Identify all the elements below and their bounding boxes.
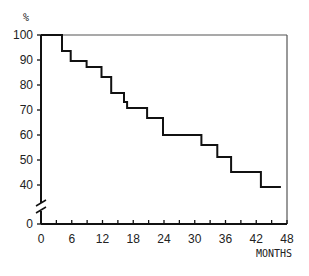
- x-tick-label: 0: [38, 232, 45, 246]
- survival-chart: 06121824303642480405060708090100 % MONTH…: [0, 0, 309, 276]
- x-tick-label: 48: [280, 232, 294, 246]
- y-tick-label: 90: [20, 53, 34, 67]
- x-tick-label: 6: [68, 232, 75, 246]
- survival-step-line: [41, 35, 281, 187]
- y-tick-label: 80: [20, 78, 34, 92]
- y-axis-unit-label: %: [23, 12, 29, 23]
- axes: [36, 35, 287, 224]
- survival-curve: [41, 35, 281, 187]
- axis-tick-labels: 06121824303642480405060708090100: [13, 28, 294, 246]
- x-axis-unit-label: MONTHS: [256, 248, 292, 259]
- y-tick-label: 70: [20, 103, 34, 117]
- y-tick-label: 100: [13, 28, 33, 42]
- y-tick-label: 40: [20, 178, 34, 192]
- x-tick-label: 42: [250, 232, 264, 246]
- x-tick-label: 18: [127, 232, 141, 246]
- x-tick-label: 24: [157, 232, 171, 246]
- y-tick-label: 50: [20, 153, 34, 167]
- y-tick-label: 60: [20, 128, 34, 142]
- x-tick-label: 12: [96, 232, 110, 246]
- x-tick-label: 30: [188, 232, 202, 246]
- y-tick-label: 0: [26, 217, 33, 231]
- x-tick-label: 36: [219, 232, 233, 246]
